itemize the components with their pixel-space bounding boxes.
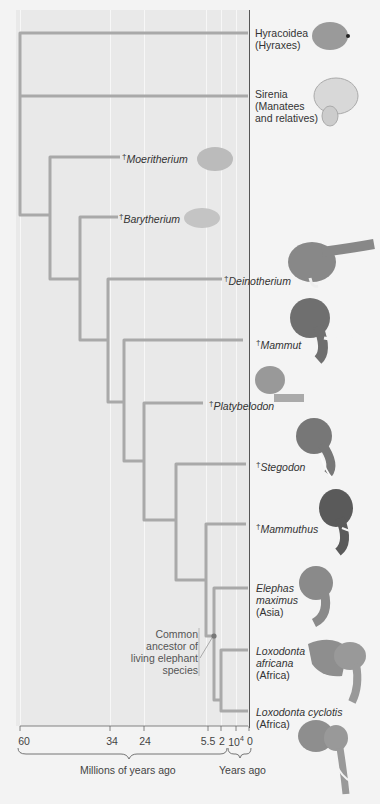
taxon-mammuthus: †Mammuthus [256, 521, 318, 535]
branch-platybelodon [144, 403, 203, 520]
african-bush-elephant-illustration [302, 634, 374, 704]
common-ancestor-node [211, 633, 216, 638]
tick-10-4: 104 [228, 735, 244, 748]
taxon-moeritherium: †Moeritherium [122, 151, 188, 165]
tick-34: 34 [106, 735, 118, 747]
branch-mammuthus [206, 524, 246, 636]
deinotherium-illustration [282, 238, 378, 288]
branch-elephas [214, 588, 248, 700]
african-forest-elephant-illustration [292, 716, 362, 798]
taxon-deinotherium: †Deinotherium [224, 273, 291, 287]
ancestor-pointer [200, 638, 212, 658]
branch-stegodon [176, 464, 246, 580]
barytherium-illustration [182, 203, 228, 233]
tick-60: 60 [18, 735, 30, 747]
taxon-barytherium: †Barytherium [119, 211, 180, 225]
mammut-illustration [288, 296, 368, 364]
common-ancestor-label: Commonancestor ofliving elephantspecies [120, 628, 198, 676]
axis-title-millions: Millions of years ago [80, 764, 176, 776]
tick-24: 24 [139, 735, 151, 747]
taxon-loxodonta-africana: Loxodontaafricana(Africa) [256, 645, 305, 681]
tick-0: 0 [247, 735, 253, 747]
manatee-illustration [308, 72, 366, 128]
stegodon-illustration [292, 416, 352, 480]
phylogenetic-tree-figure: Hyracoidea(Hyraxes) Sirenia(Manateesand … [0, 0, 380, 804]
taxon-hyracoidea: Hyracoidea(Hyraxes) [255, 27, 308, 51]
tick-5-5: 5.5 [201, 735, 216, 747]
tick-2: 2 [219, 735, 225, 747]
mammuthus-illustration [316, 488, 380, 556]
axis-title-years: Years ago [219, 764, 266, 776]
branch-loxodonta [221, 650, 248, 711]
taxon-elephas-maximus: Elephasmaximus(Asia) [256, 582, 298, 618]
platybelodon-illustration [252, 364, 312, 412]
moeritherium-illustration [195, 142, 239, 176]
asian-elephant-illustration [296, 563, 346, 629]
branch-hyracoidea [20, 33, 248, 215]
bracket-millions [18, 748, 227, 759]
hyrax-illustration [308, 18, 356, 54]
bracket-years [228, 748, 251, 758]
